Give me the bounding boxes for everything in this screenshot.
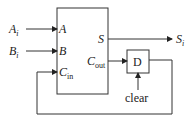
output-s: Si: [108, 32, 184, 48]
port-s-label: S: [98, 32, 104, 46]
d-flipflop: D: [127, 50, 149, 73]
input-a: Ai: [8, 22, 57, 38]
input-b: Bi: [9, 44, 57, 60]
serial-adder-diagram: Ai Bi A B Cin S Cout Si D clear: [0, 0, 193, 121]
port-cin-label: Cin: [59, 65, 73, 81]
clear-label: clear: [125, 91, 148, 105]
port-b-label: B: [59, 44, 67, 58]
input-a-label: Ai: [8, 22, 19, 38]
input-b-label: Bi: [9, 44, 19, 60]
port-cout-label: Cout: [87, 54, 106, 70]
dff-label: D: [133, 55, 142, 69]
output-s-label: Si: [176, 32, 184, 48]
port-a-label: A: [58, 22, 67, 36]
